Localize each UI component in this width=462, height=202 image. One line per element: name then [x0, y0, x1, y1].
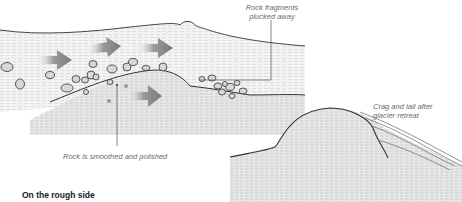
label-line: Rock fragments	[243, 3, 301, 12]
label-line: plucked away	[243, 12, 301, 21]
label-rock-fragments-plucked: Rock fragments plucked away	[243, 3, 301, 21]
label-text: Rock is smoothed and polished	[63, 152, 167, 161]
label-crag-and-tail: Crag and tail after glacier retreat	[373, 102, 433, 120]
label-line: Crag and tail after	[373, 102, 433, 111]
label-rock-smoothed: Rock is smoothed and polished	[63, 152, 167, 161]
label-line: glacier retreat	[373, 111, 433, 120]
glacier-illustration	[0, 0, 462, 202]
section-heading: On the rough side	[22, 190, 95, 200]
